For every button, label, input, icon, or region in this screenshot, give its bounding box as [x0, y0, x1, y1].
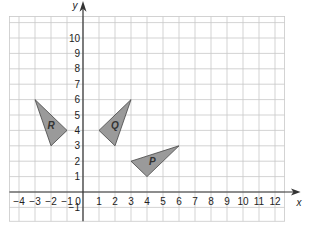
x-tick-label: −4 [13, 196, 25, 207]
coordinate-grid-diagram: RQP xy−4−3−2−10123456789101112−112345678… [0, 0, 315, 235]
y-tick-label: −1 [69, 202, 81, 213]
x-tick-label: 4 [144, 196, 150, 207]
x-tick-label: 3 [128, 196, 134, 207]
y-tick-label: 9 [74, 48, 80, 59]
x-axis-label: x [296, 197, 303, 208]
x-tick-label: 12 [269, 196, 281, 207]
y-tick-label: 7 [74, 79, 80, 90]
x-tick-label: 1 [96, 196, 102, 207]
x-tick-label: 5 [160, 196, 166, 207]
y-tick-label: 1 [74, 171, 80, 182]
shape-label-q: Q [111, 120, 119, 131]
y-tick-label: 3 [74, 140, 80, 151]
x-tick-label: 8 [208, 196, 214, 207]
x-tick-label: −2 [45, 196, 57, 207]
y-tick-label: 5 [74, 110, 80, 121]
y-tick-label: 4 [74, 125, 80, 136]
x-tick-label: 6 [176, 196, 182, 207]
axes [9, 1, 300, 221]
x-tick-label: 7 [192, 196, 198, 207]
shapes: RQP [35, 100, 179, 177]
y-tick-label: 8 [74, 63, 80, 74]
x-tick-label: −3 [29, 196, 41, 207]
x-tick-label: 10 [237, 196, 249, 207]
x-tick-label: 11 [254, 196, 265, 207]
shape-label-r: R [47, 120, 55, 131]
y-tick-label: 6 [74, 94, 80, 105]
y-axis-label: y [72, 0, 79, 11]
y-tick-label: 10 [69, 33, 81, 44]
grid-svg: RQP xy−4−3−2−10123456789101112−112345678… [0, 0, 315, 235]
y-tick-label: 2 [74, 156, 80, 167]
x-tick-label: 9 [224, 196, 230, 207]
shape-label-p: P [149, 156, 156, 167]
x-tick-label: 2 [112, 196, 118, 207]
